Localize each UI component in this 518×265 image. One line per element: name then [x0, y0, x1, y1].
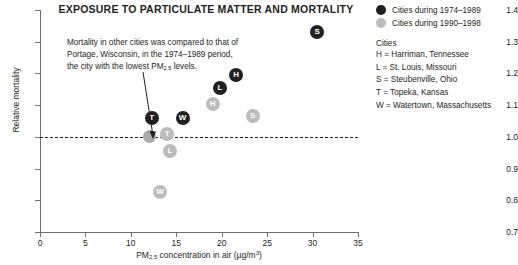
- x-tick-label: 5: [73, 239, 97, 248]
- legend-entry-label: Cities during 1974–1989: [392, 6, 481, 15]
- legend-entry: Cities during 1990–1998: [376, 18, 516, 28]
- x-axis-label-mid: concentration in air (µg/m: [157, 250, 255, 260]
- y-tick-label: 0.9: [492, 165, 518, 174]
- x-axis-label-subscript: 2.5: [149, 254, 157, 260]
- legend-entry: Cities during 1974–1989: [376, 5, 516, 15]
- x-tick-label: 0: [28, 239, 52, 248]
- x-tick-label: 15: [164, 239, 188, 248]
- y-tick-label: 0.7: [492, 228, 518, 237]
- x-tick-label: 10: [119, 239, 143, 248]
- annotation-tail: levels.: [171, 62, 196, 71]
- legend-entries: Cities during 1974–1989Cities during 199…: [376, 5, 516, 28]
- x-tick-label: 30: [301, 239, 325, 248]
- annotation-text: Mortality in other cities was compared t…: [67, 37, 242, 73]
- legend-cities-heading: Cities: [376, 39, 516, 48]
- chart-root: EXPOSURE TO PARTICULATE MATTER AND MORTA…: [0, 0, 518, 265]
- x-axis-label-end: ): [259, 250, 262, 260]
- x-tick: [267, 232, 268, 237]
- legend-swatch-light-icon: [376, 18, 386, 28]
- annotation-body: Mortality in other cities was compared t…: [67, 38, 238, 71]
- x-tick: [40, 232, 41, 237]
- x-tick: [358, 232, 359, 237]
- legend-city-item: W = Watertown, Massachusetts: [376, 100, 516, 113]
- x-axis-label-prefix: PM: [136, 250, 149, 260]
- x-tick: [176, 232, 177, 237]
- legend-city-item: L = St. Louis, Missouri: [376, 62, 516, 75]
- legend-swatch-dark-icon: [376, 5, 386, 15]
- x-tick: [85, 232, 86, 237]
- x-tick-label: 20: [210, 239, 234, 248]
- x-tick: [313, 232, 314, 237]
- legend: Cities during 1974–1989Cities during 199…: [376, 5, 516, 113]
- legend-city-item: S = Steubenville, Ohio: [376, 74, 516, 87]
- x-tick-label: 35: [346, 239, 370, 248]
- legend-cities-list: H = Harriman, TennesseeL = St. Louis, Mi…: [376, 49, 516, 113]
- y-axis-label: Relative mortality: [11, 40, 21, 160]
- x-tick: [222, 232, 223, 237]
- legend-entry-label: Cities during 1990–1998: [392, 19, 481, 28]
- x-tick-label: 25: [255, 239, 279, 248]
- y-tick-label: 1.0: [492, 133, 518, 142]
- legend-city-item: T = Topeka, Kansas: [376, 87, 516, 100]
- x-tick: [131, 232, 132, 237]
- x-axis-label: PM2.5 concentration in air (µg/m3): [40, 250, 358, 260]
- y-tick-label: 0.8: [492, 196, 518, 205]
- legend-city-item: H = Harriman, Tennessee: [376, 49, 516, 62]
- x-axis-line: [40, 232, 358, 233]
